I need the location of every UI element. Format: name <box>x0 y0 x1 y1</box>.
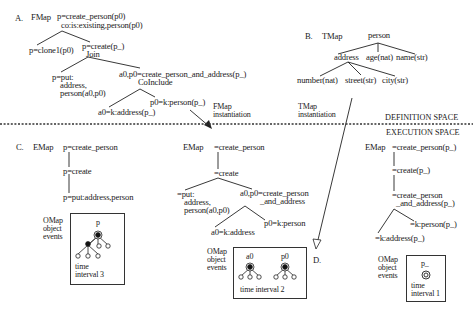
fmap-k-address-node: a0=k:address(p_) <box>98 108 155 117</box>
edge-coinclude-left <box>109 89 140 107</box>
fmap-join-label: Join <box>86 50 100 59</box>
arrowhead-tmap <box>313 239 321 249</box>
omap-node-label-p-underscore: p_ <box>421 260 429 268</box>
tmap-node-street: street(str) <box>345 76 376 85</box>
fmap-instantiation-line2: instantiation <box>213 111 251 119</box>
fmap-label: FMap <box>31 13 51 22</box>
tmap-node-address: address <box>334 53 359 62</box>
tmap-node-age: age(nat) <box>366 53 393 62</box>
tmap-node-name: name(str) <box>396 53 428 62</box>
edge-b-number <box>320 62 348 76</box>
c-mid-omap-line3: events <box>207 264 227 272</box>
execution-space-label: EXECUTION SPACE <box>386 128 460 137</box>
tmap-instantiation-line2: instantiation <box>298 111 336 119</box>
c-left-node-create: p=create <box>63 167 91 176</box>
c-mid-node-create: =create <box>214 169 238 178</box>
time-interval-3-line2: interval 3 <box>75 271 104 279</box>
fmap-clone-node: p=clone1(p0) <box>29 46 74 55</box>
c-left-node-put: p=put:address,person <box>63 193 133 202</box>
time-interval-2: time interval 2 <box>240 286 284 294</box>
edge-coinclude-right <box>140 89 155 97</box>
d-emap-label: EMap <box>365 143 385 152</box>
fmap-root-line2: co:is:existing,person(p0) <box>61 21 142 30</box>
c-mid-k-address: a0=k:address <box>211 228 255 237</box>
omap-node-label-p: p <box>96 219 100 227</box>
panel-b-letter: B. <box>305 32 313 41</box>
tmap-node-city: city(str) <box>382 76 408 85</box>
edge-d-leaf-left <box>378 209 394 233</box>
edge-join-left <box>61 57 88 72</box>
c-mid-cpa-line2: _and_address <box>260 197 305 206</box>
c-mid-put-line3: person(a0,p0) <box>184 206 230 215</box>
time-interval-1-line2: interval 1 <box>411 290 440 298</box>
d-k-person: =k:person(p_) <box>410 220 457 229</box>
c-left-emap-label: EMap <box>33 143 53 152</box>
tmap-root-person: person <box>368 31 390 40</box>
omap-node-label-p0: p0 <box>281 253 289 261</box>
fmap-k-person-node: p0=k:person(p_) <box>150 98 205 107</box>
edge-a-root-left <box>37 31 62 45</box>
tmap-label: TMap <box>322 32 342 41</box>
tmap-instantiation-arrow <box>317 98 352 244</box>
d-omap-line3: events <box>378 272 398 280</box>
definition-space-label: DEFINITION SPACE <box>385 113 458 122</box>
tmap-node-number: number(nat) <box>297 76 338 85</box>
d-node-create-person: =create_person(p_) <box>392 143 456 152</box>
c-mid-node-create-person: =create_person <box>214 143 264 152</box>
c-mid-k-person: p0=k:person <box>264 219 305 228</box>
d-node-create: =create(p_) <box>392 166 430 175</box>
c-left-omap-line3: events <box>43 233 63 241</box>
c-mid-emap-label: EMap <box>183 143 203 152</box>
d-k-address: =k:address(p_) <box>375 234 425 243</box>
c-left-node-create-person: p=create_person <box>63 143 118 152</box>
panel-c-letter: C. <box>16 143 24 152</box>
omap-node-label-a0: a0 <box>246 253 253 261</box>
fmap-coinclude-label: CoInclude <box>138 78 172 87</box>
edge-c-mid-leaf-right <box>245 206 265 220</box>
panel-d-letter: D. <box>313 256 321 265</box>
panel-a-letter: A. <box>15 14 23 23</box>
fmap-put-line3: person(a0,p0) <box>60 89 106 98</box>
d-node-cpa-line2: _and_address(p_) <box>396 199 455 208</box>
